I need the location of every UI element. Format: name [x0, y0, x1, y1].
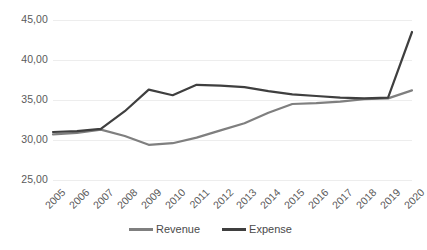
- y-axis-tick: 40,00: [4, 53, 48, 65]
- y-axis-tick: 30,00: [4, 133, 48, 145]
- legend-swatch-icon: [222, 228, 246, 231]
- y-axis-tick: 35,00: [4, 93, 48, 105]
- legend-swatch-icon: [129, 228, 153, 231]
- legend-item-expense[interactable]: Expense: [222, 224, 292, 235]
- series-lines: [53, 32, 412, 145]
- legend-label: Revenue: [156, 224, 200, 235]
- y-axis-tick: 25,00: [4, 173, 48, 185]
- legend-item-revenue[interactable]: Revenue: [129, 224, 200, 235]
- series-line-expense: [53, 32, 412, 132]
- chart-legend: RevenueExpense: [0, 224, 421, 235]
- legend-label: Expense: [249, 224, 292, 235]
- y-axis-tick: 45,00: [4, 13, 48, 25]
